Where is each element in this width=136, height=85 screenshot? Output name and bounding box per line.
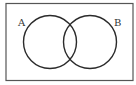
set-a-label: A — [17, 17, 26, 28]
universal-set-frame — [6, 4, 133, 81]
venn-diagram: A B — [0, 0, 136, 85]
set-b-label: B — [114, 17, 121, 28]
